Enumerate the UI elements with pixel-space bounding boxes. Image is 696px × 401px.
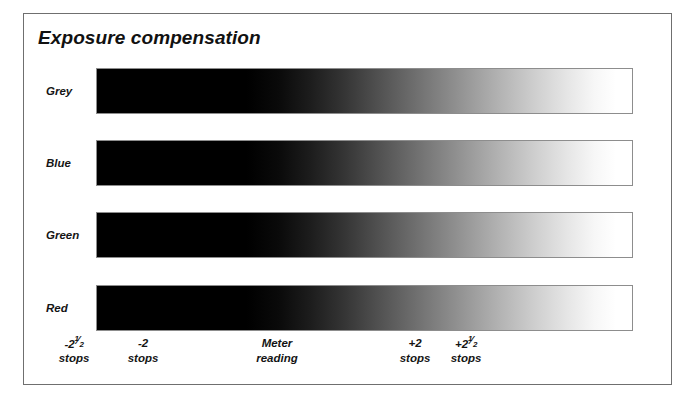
- axis-tick-meter-reading: Meterreading: [256, 336, 298, 365]
- axis-tick-line1: +21⁄2: [451, 336, 482, 351]
- axis-tick-line1: -2: [128, 336, 159, 351]
- row-label-red: Red: [46, 302, 92, 314]
- axis-tick-value: +2: [455, 338, 468, 350]
- gradient-bar-red: [96, 285, 633, 331]
- axis-tick-line2: stops: [59, 351, 90, 366]
- axis-tick-line2: reading: [256, 351, 298, 366]
- gradient-bar-grey: [96, 68, 633, 114]
- row-label-blue: Blue: [46, 157, 92, 169]
- gradient-bar-blue: [96, 140, 633, 186]
- row-label-green: Green: [46, 229, 92, 241]
- gradient-row-grey: Grey: [0, 68, 696, 114]
- gradient-row-red: Red: [0, 285, 696, 331]
- axis-tick-value: Meter: [262, 337, 293, 349]
- axis-tick-line1: Meter: [256, 336, 298, 351]
- axis-tick-line1: -21⁄2: [59, 336, 90, 351]
- gradient-row-green: Green: [0, 212, 696, 258]
- half-fraction-glyph: 1⁄2: [75, 336, 84, 348]
- axis-tick-line2: stops: [400, 351, 431, 366]
- fraction-denominator: 2: [473, 338, 477, 353]
- axis-tick-line2: stops: [128, 351, 159, 366]
- row-label-grey: Grey: [46, 85, 92, 97]
- axis-tick-value: +2: [408, 337, 421, 349]
- axis-tick-2-stops: -21⁄2stops: [59, 336, 90, 366]
- axis-tick-2-stops: -2stops: [128, 336, 159, 365]
- figure-title: Exposure compensation: [38, 27, 261, 49]
- half-fraction-glyph: 1⁄2: [468, 336, 477, 348]
- axis-tick-line2: stops: [451, 351, 482, 366]
- axis-tick-value: -2: [138, 337, 148, 349]
- axis-tick-2-stops: +21⁄2stops: [451, 336, 482, 366]
- axis-tick-labels: -21⁄2stops-2stopsMeterreading+2stops+21⁄…: [0, 336, 696, 374]
- axis-tick-line1: +2: [400, 336, 431, 351]
- axis-tick-2-stops: +2stops: [400, 336, 431, 365]
- exposure-compensation-figure: Exposure compensation GreyBlueGreenRed -…: [0, 0, 696, 401]
- gradient-bar-green: [96, 212, 633, 258]
- fraction-denominator: 2: [80, 338, 84, 353]
- gradient-row-blue: Blue: [0, 140, 696, 186]
- axis-tick-value: -2: [64, 338, 74, 350]
